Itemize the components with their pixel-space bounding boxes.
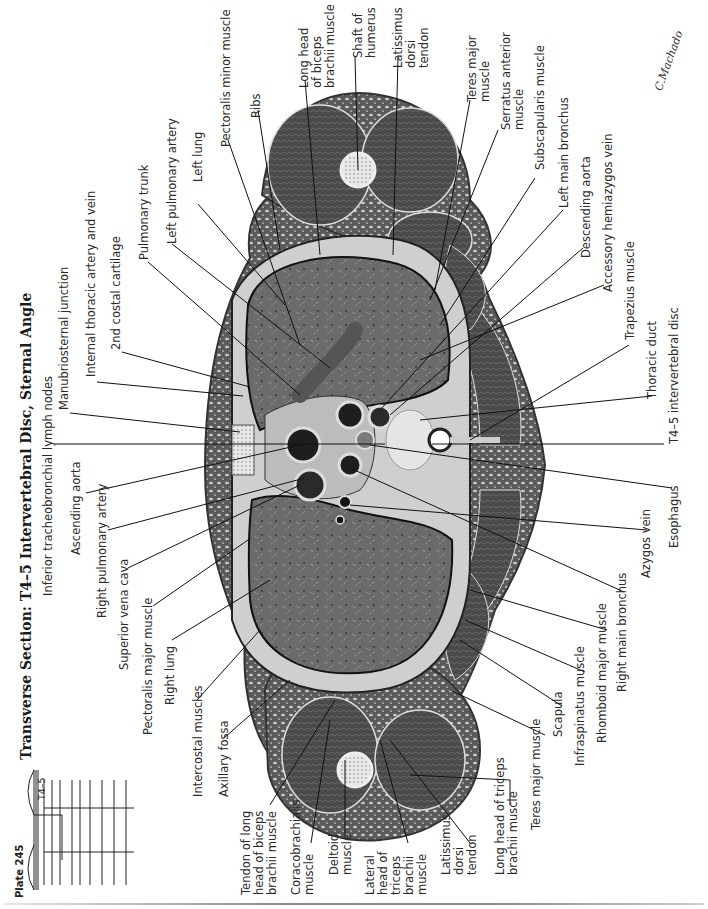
label-right-lung: Right lung (164, 646, 177, 705)
plate-title: Transverse Section: T4–5 Intervertebral … (18, 293, 34, 760)
label-left-pulmonary-artery: Left pulmonary artery (166, 118, 179, 244)
label-subscapularis: Subscapularis muscle (534, 45, 547, 170)
label-left-lung: Left lung (192, 132, 205, 182)
page-bottom-rule (4, 903, 704, 905)
label-teres-major-left: Teres major muscle (466, 35, 492, 102)
label-deltoid: Deltoid muscle (328, 834, 354, 875)
label-ascending-aorta: Ascending aorta (70, 461, 83, 555)
label-right-pulmonary-artery: Right pulmonary artery (96, 484, 109, 618)
label-azygos-vein: Azygos vein (640, 509, 653, 578)
label-rhomboid-major-muscle: Rhomboid major muscle (596, 603, 609, 743)
label-pectoralis-major-muscle: Pectoralis major muscle (142, 598, 155, 735)
label-tendon-long-head-biceps: Tendon of long head of biceps brachii mu… (240, 811, 279, 895)
label-esophagus: Esophagus (668, 485, 681, 548)
label-axillary-fossa: Axillary fossa (218, 720, 231, 797)
label-accessory-hemiazygos-vein: Accessory hemiazygos vein (602, 133, 615, 292)
label-right-main-bronchus: Right main bronchus (616, 573, 629, 692)
ascending-aorta (286, 428, 320, 462)
label-latissimus-dorsi-tendon-right: Latissimus dorsi tendon (440, 814, 479, 875)
level-marker: T4–5 (36, 777, 47, 800)
label-inferior-tracheobronchial-lymph-nodes: Inferior tracheobronchial lymph nodes (42, 376, 55, 596)
label-long-head-biceps: Long head of biceps brachii muscle (298, 4, 337, 88)
azygos-vein (336, 516, 344, 524)
label-pulmonary-trunk: Pulmonary trunk (138, 165, 151, 260)
label-trapezius-muscle: Trapezius muscle (624, 241, 637, 340)
label-ribs: Ribs (250, 94, 263, 118)
label-t4-5-intervertebral-disc: T4–5 intervertebral disc (668, 307, 681, 444)
label-manubriosternal-junction: Manubriosternal junction (58, 267, 71, 410)
right-main-bronchus (339, 454, 361, 476)
label-internal-thoracic-artery-vein: Internal thoracic artery and vein (85, 191, 98, 377)
label-thoracic-duct: Thoracic duct (646, 321, 659, 399)
esophagus (356, 431, 374, 449)
label-left-main-bronchus: Left main bronchus (558, 97, 571, 208)
label-latissimus-dorsi-tendon-left: Latissimus dorsi tendon (392, 7, 431, 68)
label-serratus-anterior: Serratus anterior muscle (500, 32, 526, 130)
humerus-right (338, 753, 372, 787)
label-infraspinatus-muscle: Infraspinatus muscle (574, 646, 587, 766)
label-pectoralis-minor-muscle: Pectoralis minor muscle (220, 10, 233, 147)
sternum (232, 425, 254, 475)
label-coracobrachialis: Coracobrachialis muscle (290, 799, 316, 895)
level-thumbnail (14, 760, 134, 900)
label-long-head-triceps: Long head of triceps brachii muscle (494, 757, 520, 875)
label-descending-aorta: Descending aorta (580, 156, 593, 258)
label-lateral-head-triceps: Lateral head of triceps brachii muscle (364, 852, 429, 895)
label-scapula: Scapula (552, 691, 565, 737)
anatomy-plate: Plate 245 Transverse Section: T4–5 Inter… (0, 0, 708, 909)
label-intercostal-muscles: Intercostal muscles (192, 685, 205, 797)
left-main-bronchus (337, 402, 363, 428)
label-superior-vena-cava: Superior vena cava (118, 559, 131, 670)
label-teres-major-right: Teres major muscle (530, 719, 543, 830)
label-2nd-costal-cartilage: 2nd costal cartilage (110, 236, 123, 350)
spinal-canal (429, 429, 451, 451)
label-shaft-of-humerus: Shaft of humerus (352, 7, 378, 58)
